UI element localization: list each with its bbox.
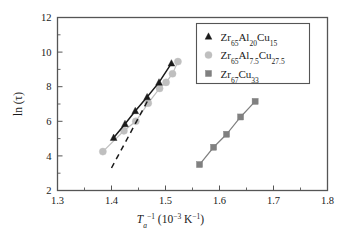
data-point-zr67cu33 [252,98,258,104]
y-axis-label: ln (τ) [12,92,25,116]
y-tick-label: 6 [46,116,51,127]
x-tick-label: 1.7 [267,195,280,206]
x-axis-label-paren: (10 [155,213,173,226]
data-point-zr65al7.5cu27.5 [162,79,169,86]
data-point-zr67cu33 [223,131,229,137]
x-axis-label-K: K [181,213,193,225]
data-point-zr67cu33 [238,114,244,120]
chart-canvas: 1.31.41.51.61.71.824681012ln (τ)Ta−1 (10… [0,0,351,236]
y-tick-label: 4 [46,151,52,162]
data-point-zr67cu33 [196,162,202,168]
x-tick-label: 1.5 [159,195,172,206]
y-tick-label: 10 [41,47,52,58]
data-point-zr65al7.5cu27.5 [174,58,181,65]
legend-marker-2 [205,70,211,76]
data-point-zr65al7.5cu27.5 [99,148,106,155]
figure-container: 1.31.41.51.61.71.824681012ln (τ)Ta−1 (10… [0,0,351,236]
data-point-zr67cu33 [211,144,217,150]
x-axis-label-sub-a: a [143,220,147,229]
x-axis-label: Ta−1 (10−3 K−1) [137,211,205,229]
x-tick-label: 1.8 [321,195,334,206]
data-point-zr65al20cu15 [168,60,175,66]
x-axis-label-close: ) [200,213,204,226]
y-tick-label: 12 [41,12,52,23]
x-tick-label: 1.4 [105,195,119,206]
data-point-zr65al7.5cu27.5 [169,70,176,77]
y-tick-label: 8 [46,81,51,92]
legend-marker-1 [205,51,212,58]
y-tick-label: 2 [46,185,51,196]
x-tick-label: 1.3 [51,195,64,206]
x-tick-label: 1.6 [213,195,226,206]
